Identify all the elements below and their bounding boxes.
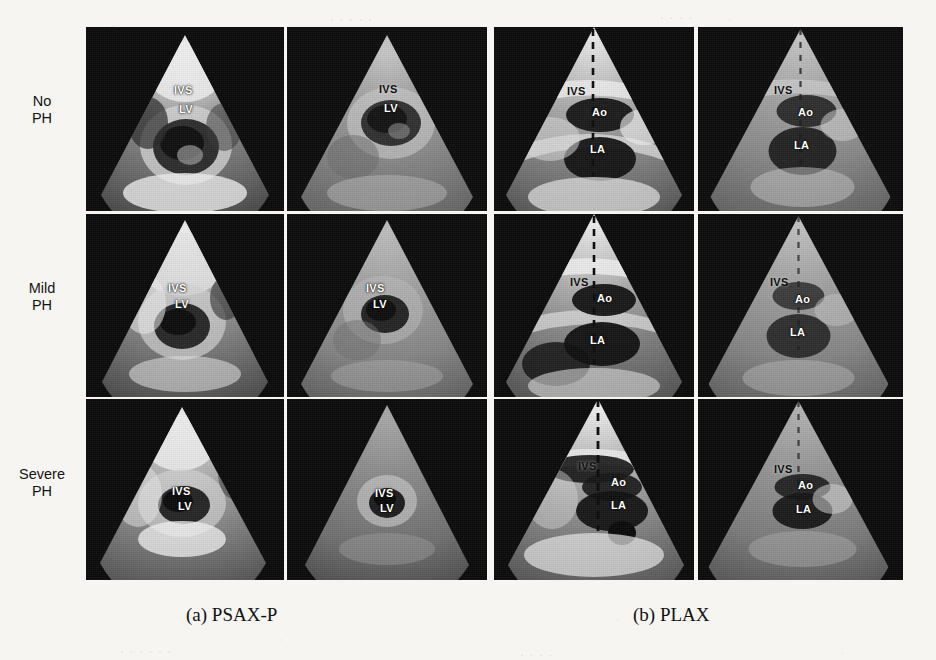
scan-artifact: . . . . . bbox=[330, 8, 373, 25]
caption-panel-b: (b) PLAX bbox=[633, 604, 710, 626]
echo-image-plax-severe-ph-1[interactable]: IVS Ao LA bbox=[494, 399, 694, 580]
row-label-line2: PH bbox=[0, 110, 84, 127]
scan-artifact: . . . . bbox=[520, 643, 553, 660]
scan-artifact: . . . . bbox=[660, 6, 693, 23]
echocardiography-figure: . . . . . . . . . . . . . . . . . . . No… bbox=[0, 0, 936, 660]
echo-image-plax-mild-ph-1[interactable]: IVS Ao LA bbox=[494, 214, 694, 397]
row-label-line2: PH bbox=[0, 483, 84, 500]
row-label-line1: Mild bbox=[0, 280, 84, 297]
row-label-no-ph: No PH bbox=[0, 93, 84, 127]
echo-image-plax-no-ph-2[interactable]: IVS Ao LA bbox=[698, 27, 903, 211]
caption-panel-a: (a) PSAX-P bbox=[186, 604, 277, 626]
echo-image-psax-severe-ph-1[interactable]: IVS LV bbox=[86, 399, 284, 580]
echo-image-plax-mild-ph-2[interactable]: IVS Ao LA bbox=[698, 214, 903, 397]
echo-image-psax-severe-ph-2[interactable]: IVS LV bbox=[287, 399, 487, 580]
echo-image-plax-severe-ph-2[interactable]: IVS Ao LA bbox=[698, 399, 903, 580]
row-label-line1: No bbox=[0, 93, 84, 110]
echo-image-psax-mild-ph-2[interactable]: IVS LV bbox=[287, 214, 487, 397]
echo-image-plax-no-ph-1[interactable]: IVS Ao LA bbox=[494, 27, 694, 211]
row-label-mild-ph: Mild PH bbox=[0, 280, 84, 314]
echo-image-psax-no-ph-1[interactable]: IVS LV bbox=[86, 27, 284, 211]
scan-artifact: . . . . . . bbox=[120, 640, 172, 657]
row-label-severe-ph: Severe PH bbox=[0, 466, 84, 500]
echo-image-psax-mild-ph-1[interactable]: IVS LV bbox=[86, 214, 284, 397]
row-label-line1: Severe bbox=[0, 466, 84, 483]
echo-image-psax-no-ph-2[interactable]: IVS LV bbox=[287, 27, 487, 211]
row-label-line2: PH bbox=[0, 297, 84, 314]
